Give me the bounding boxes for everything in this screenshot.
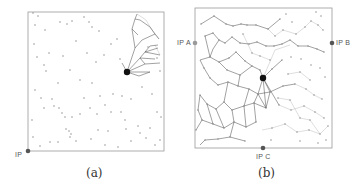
panel-a-network-diagram — [26, 12, 164, 153]
sensor-node — [96, 113, 98, 115]
sensor-node — [104, 144, 106, 146]
faint-link — [311, 21, 318, 25]
faint-link — [296, 27, 305, 34]
sensor-node — [304, 26, 306, 28]
sensor-node — [53, 105, 55, 107]
sensor-node — [69, 69, 71, 71]
panel-a-ip-label: IP — [15, 151, 22, 159]
sensor-node — [103, 54, 105, 56]
sensor-node — [75, 40, 77, 42]
sensor-node — [117, 146, 119, 148]
link — [317, 49, 324, 52]
sensor-node — [256, 41, 258, 43]
sensor-node — [228, 57, 230, 59]
link — [135, 40, 142, 48]
sensor-node — [79, 79, 81, 81]
sensor-node — [274, 35, 276, 37]
link — [139, 72, 150, 76]
sensor-node — [279, 18, 281, 20]
sensor-node — [285, 13, 287, 15]
sensor-node — [253, 102, 255, 104]
sensor-node — [255, 121, 257, 123]
link — [145, 63, 160, 64]
link — [230, 137, 245, 141]
sensor-node — [69, 136, 71, 138]
sensor-node — [71, 116, 73, 118]
faint-link — [155, 45, 160, 55]
sensor-node — [223, 127, 225, 129]
sensor-node — [314, 111, 316, 113]
sensor-node — [212, 123, 214, 125]
sensor-node — [218, 39, 220, 41]
sensor-node — [319, 133, 321, 135]
link — [241, 24, 247, 25]
sensor-node — [296, 131, 298, 133]
sensor-node — [90, 138, 92, 140]
sensor-node — [159, 139, 161, 141]
faint-link — [291, 106, 304, 110]
sensor-node — [251, 52, 253, 54]
sensor-node — [215, 108, 217, 110]
faint-link — [314, 95, 322, 99]
link — [216, 102, 224, 109]
sensor-node — [107, 130, 109, 132]
faint-link — [295, 84, 306, 89]
link — [216, 109, 224, 128]
link — [232, 110, 234, 122]
sensor-node — [295, 33, 297, 35]
link — [238, 75, 240, 86]
sensor-node — [237, 85, 239, 87]
link — [142, 34, 155, 40]
faint-link — [297, 130, 309, 132]
sensor-node — [226, 69, 228, 71]
sensor-node — [70, 133, 72, 135]
sensor-node — [224, 42, 226, 44]
sink-node — [124, 69, 130, 75]
link — [236, 52, 245, 61]
sensor-node — [197, 109, 199, 111]
sensor-node — [59, 21, 61, 23]
link — [308, 46, 317, 49]
faint-link — [310, 120, 320, 134]
link — [268, 19, 280, 29]
sensor-node — [125, 128, 127, 130]
link — [145, 52, 160, 55]
link — [140, 52, 145, 58]
sensor-node — [99, 95, 101, 97]
link — [254, 94, 258, 103]
sensor-node — [64, 116, 66, 118]
sensor-node — [199, 94, 201, 96]
faint-link — [318, 25, 323, 30]
panel-b-ip-a-label: IP A — [177, 39, 191, 47]
sensor-node — [49, 141, 51, 143]
sensor-node — [239, 42, 241, 44]
sensor-node — [309, 79, 311, 81]
link — [210, 78, 218, 85]
faint-link — [283, 30, 296, 34]
sensor-node — [270, 139, 272, 141]
link — [219, 62, 227, 70]
sensor-node — [79, 113, 81, 115]
sensor-node — [310, 64, 312, 66]
entry-point-marker — [261, 146, 266, 151]
faint-link — [300, 72, 310, 80]
sensor-node — [227, 81, 229, 83]
sensor-node — [310, 20, 312, 22]
sensor-node — [124, 119, 126, 121]
sensor-node — [36, 56, 38, 58]
sensor-node — [86, 52, 88, 54]
sensor-node — [75, 140, 77, 142]
sensor-node — [116, 38, 118, 40]
sensor-node — [51, 98, 53, 100]
sensor-node — [297, 45, 299, 47]
faint-link — [300, 118, 310, 120]
sensor-node — [325, 139, 327, 141]
sensor-node — [315, 11, 317, 13]
sensor-node — [259, 55, 261, 57]
sensor-node — [229, 136, 231, 138]
sensor-node — [246, 24, 248, 26]
sensor-node — [277, 97, 279, 99]
faint-link — [137, 14, 146, 20]
panel-b-ip-c-label: IP C — [256, 153, 271, 161]
sensor-node — [149, 127, 151, 129]
